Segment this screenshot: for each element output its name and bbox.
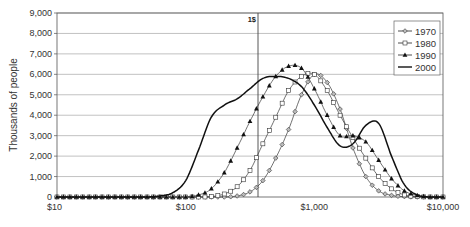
diamond-marker xyxy=(351,146,356,151)
series-line xyxy=(57,73,443,197)
diamond-marker xyxy=(338,107,343,112)
square-marker xyxy=(299,74,303,78)
triangle-marker xyxy=(267,83,272,87)
triangle-marker xyxy=(312,86,317,90)
triangle-marker xyxy=(280,67,285,71)
diamond-marker xyxy=(331,92,336,97)
y-tick-label: 3,000 xyxy=(29,131,52,141)
diamond-marker xyxy=(299,92,304,97)
diamond-marker xyxy=(286,127,291,132)
x-tick-label: $10 xyxy=(47,202,62,212)
triangle-marker xyxy=(293,63,298,67)
triangle-marker xyxy=(402,188,407,192)
square-marker xyxy=(254,156,258,160)
y-tick-label: 1,000 xyxy=(29,172,52,182)
diamond-marker xyxy=(364,174,369,179)
square-marker xyxy=(390,187,394,191)
triangle-marker xyxy=(241,132,246,136)
square-marker xyxy=(229,189,233,193)
series-line xyxy=(57,65,443,197)
square-marker xyxy=(312,72,316,76)
square-marker xyxy=(402,193,406,197)
triangle-marker xyxy=(331,124,336,128)
legend-label: 1980 xyxy=(415,38,436,49)
gridlines xyxy=(57,13,443,177)
square-marker xyxy=(261,142,265,146)
series-1980 xyxy=(55,71,445,199)
triangle-marker xyxy=(235,145,240,149)
legend-label: 1970 xyxy=(415,26,436,37)
square-marker xyxy=(383,181,387,185)
diamond-marker xyxy=(280,142,285,147)
square-marker xyxy=(364,156,368,160)
square-marker xyxy=(203,195,207,199)
triangle-marker xyxy=(325,113,330,117)
legend: 1970198019902000 xyxy=(394,21,440,75)
triangle-marker xyxy=(222,170,227,174)
y-tick-label: 9,000 xyxy=(29,8,52,18)
legend-label: 2000 xyxy=(415,62,436,73)
poverty-line-label: 1$ xyxy=(248,15,257,24)
square-marker xyxy=(345,125,349,129)
legend-label: 1990 xyxy=(415,50,436,61)
square-marker xyxy=(377,175,381,179)
diamond-marker xyxy=(235,194,240,199)
diamond-marker xyxy=(293,109,298,114)
diamond-marker xyxy=(248,190,253,195)
square-marker xyxy=(370,166,374,170)
triangle-marker xyxy=(363,139,368,143)
y-axis-ticks: 01,0002,0003,0004,0005,0006,0007,0008,00… xyxy=(29,8,57,202)
square-marker xyxy=(287,89,291,93)
diamond-marker xyxy=(357,161,362,166)
square-marker xyxy=(396,191,400,195)
square-marker xyxy=(338,113,342,117)
x-tick-label: $10,000 xyxy=(427,202,460,212)
diamond-marker xyxy=(273,156,278,161)
square-marker xyxy=(267,129,271,133)
square-marker xyxy=(222,192,226,196)
x-tick-label: $100 xyxy=(176,202,196,212)
y-tick-label: 7,000 xyxy=(29,49,52,59)
triangle-marker xyxy=(248,119,253,123)
square-marker xyxy=(280,101,284,105)
y-tick-label: 4,000 xyxy=(29,110,52,120)
triangle-marker xyxy=(228,158,233,162)
square-marker xyxy=(235,185,239,189)
square-marker xyxy=(357,146,361,150)
y-axis-label: Thousands of people xyxy=(8,58,19,152)
square-marker xyxy=(319,79,323,83)
square-marker xyxy=(403,41,407,45)
y-tick-label: 0 xyxy=(47,192,52,202)
square-marker xyxy=(274,115,278,119)
diamond-marker xyxy=(383,192,388,197)
square-marker xyxy=(209,195,213,199)
square-marker xyxy=(325,89,329,93)
square-marker xyxy=(332,101,336,105)
y-tick-label: 6,000 xyxy=(29,69,52,79)
x-axis-ticks: $10$100$1,000$10,000 xyxy=(47,202,459,212)
diamond-marker xyxy=(241,192,246,197)
y-tick-label: 8,000 xyxy=(29,28,52,38)
y-tick-label: 2,000 xyxy=(29,151,52,161)
x-tick-label: $1,000 xyxy=(301,202,329,212)
diamond-marker xyxy=(267,168,272,173)
square-marker xyxy=(248,168,252,172)
diamond-marker xyxy=(228,194,233,199)
square-marker xyxy=(216,194,220,198)
series-lines xyxy=(55,63,446,200)
triangle-marker xyxy=(318,99,323,103)
income-distribution-chart: 01,0002,0003,0004,0005,0006,0007,0008,00… xyxy=(0,0,470,227)
y-tick-label: 5,000 xyxy=(29,90,52,100)
series-1990 xyxy=(55,63,446,199)
square-marker xyxy=(242,178,246,182)
triangle-marker xyxy=(299,66,304,70)
